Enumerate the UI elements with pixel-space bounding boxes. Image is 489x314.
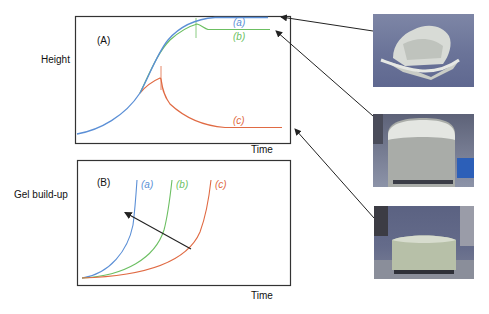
curve-a-b (140, 24, 270, 93)
panel-a-xlabel: Time (251, 144, 273, 155)
pointer-arrow-photo-1 (281, 17, 373, 31)
panel-b-ylabel: Gel build-up (14, 189, 68, 200)
label-a-a: (a) (233, 17, 245, 28)
curve-b-a (82, 180, 137, 278)
curve-b-b (82, 180, 172, 278)
panel-a: (A) Height Time (a) (b) (c) (41, 17, 291, 156)
curve-b-c (82, 180, 211, 278)
panel-b: (B) Gel build-up Time (a) (b) (c) (14, 161, 291, 302)
stable-foam-photo (373, 114, 474, 187)
label-b-a: (a) (141, 179, 153, 190)
collapsed-foam-photo (373, 14, 474, 87)
panel-b-xlabel: Time (251, 290, 273, 301)
pointer-arrow-photo-3 (295, 129, 374, 218)
panel-a-tag: (A) (97, 35, 110, 46)
label-b-c: (c) (215, 179, 227, 190)
panel-b-tag: (B) (97, 177, 110, 188)
label-a-c: (c) (233, 115, 245, 126)
label-b-b: (b) (176, 179, 188, 190)
label-a-b: (b) (233, 31, 245, 42)
shrunk-foam-photo (374, 206, 474, 279)
panel-a-ylabel: Height (41, 54, 70, 65)
